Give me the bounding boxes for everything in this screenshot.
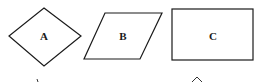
partial-shape-mark [37, 79, 38, 82]
shape-b: B [84, 13, 162, 59]
shape-c: C [172, 9, 253, 60]
partial-shape-apex [192, 77, 202, 82]
shape-a-label: A [40, 30, 48, 42]
shape-b-label: B [119, 30, 127, 42]
cropped-lower-row [37, 77, 202, 82]
shapes-figure: A B C [0, 0, 260, 82]
shape-c-label: C [209, 30, 217, 42]
shape-a: A [9, 8, 81, 66]
